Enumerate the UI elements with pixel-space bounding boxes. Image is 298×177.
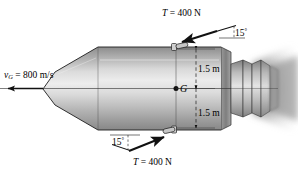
angle-bottom-degree-symbol: ° <box>122 136 125 143</box>
velocity-label: vG = 800 m/s <box>4 70 53 80</box>
thrust-arrow-bottom-icon <box>129 137 164 151</box>
angle-top-value: 15 <box>235 28 245 38</box>
diagram-canvas <box>0 0 298 177</box>
thrust-top-label: T = 400 N <box>162 8 201 18</box>
angle-top-degree-symbol: ° <box>245 27 248 34</box>
thrust-bottom-value: = 400 N <box>138 157 172 167</box>
dimension-lower-label: 1.5 m <box>198 108 220 118</box>
thrust-top-value: = 400 N <box>167 8 201 18</box>
dimension-upper-label: 1.5 m <box>198 64 220 74</box>
spacecraft-free-body-diagram: T = 400 N 15° vG = 800 m/s 1.5 m 1.5 m G… <box>0 0 298 177</box>
velocity-value: = 800 m/s <box>13 70 53 80</box>
angle-bottom-label: 15° <box>112 136 124 147</box>
thrust-arrow-top-icon <box>182 31 217 42</box>
angle-bottom-value: 15 <box>112 137 122 147</box>
center-of-mass-label: G <box>180 83 187 94</box>
thrust-bottom-label: T = 400 N <box>133 157 172 167</box>
angle-top-label: 15° <box>235 27 247 38</box>
